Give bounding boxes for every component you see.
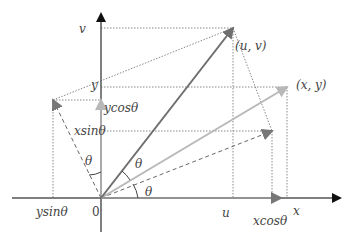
angle-arc-vertical [89,172,101,175]
xcos-label: xcosθ [253,214,288,228]
u-mark-label: u [222,206,230,220]
theta-vertical-label: θ [85,154,93,168]
v-axis-label: v [79,22,86,36]
y-mark-label: y [90,78,98,92]
point-xy-label: (x, y) [296,78,327,92]
origin-label: 0 [92,205,100,219]
x-axis-label: x [293,204,300,218]
xsin-label: xsinθ [74,124,107,138]
ysin-label: ysinθ [35,205,69,219]
point-uv-label: (u, v) [235,39,267,53]
ycos-label: ycosθ [103,101,139,115]
theta-horizontal-label: θ [145,185,153,199]
theta-between-label: θ [135,157,143,171]
axes [12,14,340,232]
angle-arc-between [122,171,130,180]
rotation-diagram: v y ycosθ xsinθ ysinθ 0 u xcosθ x (u, v)… [0,0,356,243]
angle-arc-horizontal [133,184,138,198]
rotated-y-component [53,100,101,198]
